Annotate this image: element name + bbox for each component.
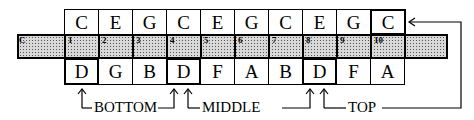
connector-arrows xyxy=(0,0,474,120)
